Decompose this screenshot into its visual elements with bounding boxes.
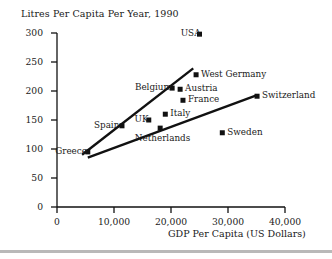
data-marker [163,112,168,117]
data-point-label: USA [181,29,201,38]
y-tick-label: 100 [15,143,43,154]
data-point-label: West Germany [201,70,266,79]
y-tick-label: 200 [15,85,43,96]
data-marker [158,126,163,131]
data-point-label: UK [135,115,149,124]
data-point-label: Belgium [135,83,172,92]
y-tick-label: 300 [15,27,43,38]
data-point-label: Sweden [227,128,262,137]
data-point-label: Spain [94,121,119,130]
data-point-label: Italy [170,109,190,118]
chart-figure: Litres Per Capita Per Year, 1990 0501001… [0,0,332,259]
y-tick-label: 50 [15,172,43,183]
x-axis-title: GDP Per Capita (US Dollars) [168,228,306,239]
data-marker [119,123,124,128]
x-tick-label: 40,000 [263,216,307,227]
y-tick-label: 150 [15,114,43,125]
x-tick-label: 20,000 [149,216,193,227]
data-point-label: Netherlands [135,134,190,143]
data-marker [178,87,183,92]
data-marker [180,98,185,103]
data-point-label: Switzerland [262,91,315,100]
data-marker [255,94,260,99]
y-tick-label: 250 [15,56,43,67]
y-tick-label: 0 [15,201,43,212]
x-tick-label: 30,000 [206,216,250,227]
y-axis-ticks [51,33,57,207]
x-tick-label: 10,000 [92,216,136,227]
data-point-label: Greece [55,147,87,156]
x-axis-ticks [57,207,285,213]
data-marker [220,130,225,135]
footer-divider [0,250,332,253]
data-marker [194,72,199,77]
x-tick-label: 0 [35,216,79,227]
data-point-label: Austria [185,84,217,93]
data-point-label: France [188,95,219,104]
axes-group [57,33,285,207]
